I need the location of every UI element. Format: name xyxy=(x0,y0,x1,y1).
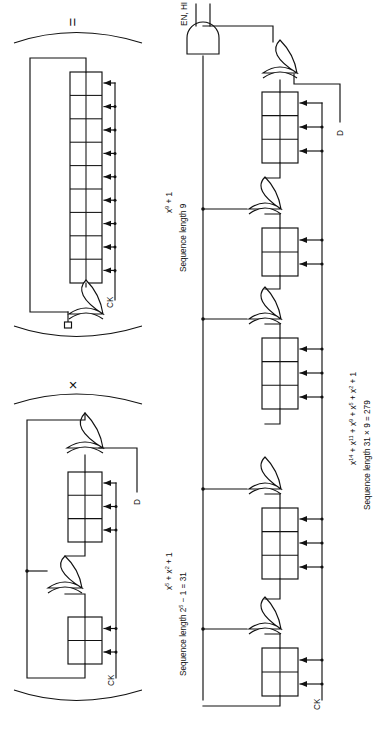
block-a-nine-stage-register: = xyxy=(14,17,188,336)
junction-c3 xyxy=(201,317,205,321)
xor-gate-c2 xyxy=(249,177,281,214)
svg-text:x9 + 1: x9 + 1 xyxy=(164,191,174,213)
brace-bottom-a xyxy=(14,326,142,337)
svg-text:D: D xyxy=(133,499,142,505)
poly-label-b: x5 + x2 + 1 xyxy=(164,552,174,590)
shift-register-a xyxy=(70,72,102,283)
xor-c5-to-reg-c5 xyxy=(265,634,280,648)
junction-c5 xyxy=(201,627,205,631)
svg-text:Sequence length 31 × 9 = 279: Sequence length 31 × 9 = 279 xyxy=(363,400,372,510)
svg-text:×: × xyxy=(64,381,81,390)
svg-text:CK: CK xyxy=(313,698,322,710)
label-ck-a: CK xyxy=(106,296,115,308)
junction-c4 xyxy=(201,487,205,491)
brace-top-b xyxy=(14,394,142,404)
shift-register-c4 xyxy=(262,508,298,579)
poly-label-c: x14 + x11 + x9 + x5 + x2 + 1 xyxy=(348,371,358,465)
xor-c3-to-reg-c3 xyxy=(265,324,280,338)
circuit-diagram: = xyxy=(0,0,380,729)
seq-label-c: Sequence length 31 × 9 = 279 xyxy=(363,400,372,510)
shift-register-c1 xyxy=(262,92,298,163)
poly-label-a: x9 + 1 xyxy=(164,191,174,213)
reg-c1-to-xor-c2 xyxy=(265,163,280,178)
junction-c2 xyxy=(201,207,205,211)
reg-c2-to-xor-c3 xyxy=(265,276,280,289)
reg-b1-to-xor-b2 xyxy=(65,542,85,556)
label-ck-c: CK xyxy=(313,698,322,710)
xor-c4-to-reg-c4 xyxy=(265,494,280,508)
brace-bottom-b xyxy=(14,690,142,701)
and-gate-enable xyxy=(187,22,219,54)
operator-equals: = xyxy=(64,17,81,26)
xor-gate-b2 xyxy=(48,556,82,593)
feedback-return-c xyxy=(203,696,280,706)
d-path-c xyxy=(294,74,340,122)
shift-register-b2 xyxy=(68,617,102,664)
svg-text:CK: CK xyxy=(107,674,116,686)
svg-text:=: = xyxy=(64,17,81,26)
svg-text:x5 + x2 + 1: x5 + x2 + 1 xyxy=(164,552,174,590)
svg-text:CK: CK xyxy=(106,296,115,308)
shift-register-c3 xyxy=(262,338,298,409)
brace-top-a xyxy=(14,33,142,44)
xor-gate-c5 xyxy=(249,597,281,634)
junction-b xyxy=(25,569,29,573)
svg-text:D: D xyxy=(336,130,345,136)
svg-text:Sequence length 9: Sequence length 9 xyxy=(179,203,188,272)
shift-register-c5 xyxy=(262,648,298,696)
xor-b2-to-reg-b2 xyxy=(65,594,85,617)
shift-register-b1 xyxy=(68,472,102,542)
operator-times: × xyxy=(64,381,81,390)
label-d-b: D xyxy=(133,499,142,505)
block-c-composite-lfsr: EN, HI D xyxy=(180,2,372,710)
label-d-c: D xyxy=(336,130,345,136)
xor-gate-c4 xyxy=(249,457,281,494)
label-ck-b: CK xyxy=(107,674,116,686)
shift-register-c2 xyxy=(262,228,298,276)
label-en-hi: EN, HI xyxy=(180,2,189,26)
reg-c3-to-xor-c4 xyxy=(265,409,280,424)
xor-c2-to-reg-c2 xyxy=(265,214,280,228)
clock-taps-c xyxy=(300,103,324,686)
figure-canvas: = xyxy=(0,0,380,729)
svg-text:Sequence length 25 − 1 = 31: Sequence length 25 − 1 = 31 xyxy=(178,572,188,676)
d-path-b xyxy=(99,448,137,492)
svg-text:x14 + x11 + x9 + x5 + x2 + 1: x14 + x11 + x9 + x5 + x2 + 1 xyxy=(348,371,358,465)
block-b-five-stage-lfsr: × CK xyxy=(14,381,188,701)
xor-gate-c3 xyxy=(249,287,281,324)
xor-gate-c1 xyxy=(263,40,297,78)
seq-label-a: Sequence length 9 xyxy=(179,203,188,272)
reg-c4-to-xor-c5 xyxy=(265,579,280,599)
svg-text:EN, HI: EN, HI xyxy=(180,2,189,26)
seq-label-b: Sequence length 25 − 1 = 31 xyxy=(178,572,188,676)
d-terminal-a xyxy=(65,322,72,328)
